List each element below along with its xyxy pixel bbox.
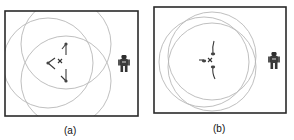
range-circles-b bbox=[159, 12, 256, 111]
robot-marker-top-icon bbox=[62, 42, 68, 55]
robot-marker-top-icon bbox=[211, 41, 215, 55]
robot-icon bbox=[118, 55, 130, 72]
figure-canvas: (a) bbox=[0, 0, 294, 140]
range-circles-a bbox=[3, 0, 111, 126]
robot-marker-bottom-icon bbox=[61, 69, 68, 83]
robot-marker-left-icon bbox=[46, 58, 55, 69]
panel-b: (b) bbox=[154, 7, 286, 134]
panel-caption-b: (b) bbox=[213, 123, 225, 134]
range-circle bbox=[168, 12, 256, 100]
panel-a: (a) bbox=[3, 0, 138, 136]
robot-marker-bottom-icon bbox=[211, 66, 215, 79]
panel-frame-b bbox=[154, 7, 286, 113]
robot-marker-left-icon bbox=[199, 60, 206, 63]
panel-caption-a: (a) bbox=[64, 125, 76, 136]
robot-icon bbox=[268, 52, 280, 69]
target-x-icon bbox=[58, 59, 62, 63]
target-x-icon bbox=[208, 58, 212, 62]
